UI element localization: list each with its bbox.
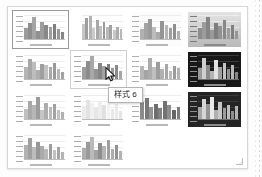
chart-bar xyxy=(82,106,86,119)
chart-bar xyxy=(210,97,214,119)
chart-style-1[interactable] xyxy=(12,10,69,49)
chart-bar xyxy=(89,16,92,39)
chart-bar xyxy=(36,70,40,79)
chart-bar xyxy=(102,105,106,119)
chart-bar xyxy=(61,72,65,79)
chart-bar xyxy=(206,65,210,79)
chart-bar xyxy=(53,24,57,39)
chart-bar xyxy=(218,67,222,79)
y-axis-tick-labels xyxy=(16,136,23,162)
chart-bar xyxy=(160,69,164,79)
chart-bar xyxy=(28,138,32,159)
chart-bar xyxy=(57,69,61,79)
chart-bar xyxy=(96,20,99,39)
chart-bar xyxy=(206,104,210,119)
chart-style-7[interactable] xyxy=(128,50,185,89)
chart-bar xyxy=(140,102,144,119)
resize-grip-icon[interactable] xyxy=(235,157,243,165)
chart-bar xyxy=(40,22,44,39)
chart-bar xyxy=(154,104,158,119)
chart-bar xyxy=(145,98,149,119)
x-axis-caption xyxy=(204,44,226,46)
y-axis-tick-labels xyxy=(132,16,139,42)
chart-bar xyxy=(53,150,57,159)
chart-style-3[interactable] xyxy=(128,10,185,49)
chart-bar xyxy=(24,28,28,39)
chart-bar xyxy=(119,151,123,159)
chart-bar xyxy=(44,25,48,39)
chart-bar xyxy=(102,66,106,79)
y-axis-tick-labels xyxy=(74,96,81,122)
chart-bar xyxy=(98,63,102,79)
chart-bar xyxy=(167,105,171,119)
chart-bar xyxy=(202,22,206,39)
chart-bar xyxy=(109,25,112,39)
chart-bar xyxy=(169,28,173,39)
chart-bar xyxy=(177,107,181,119)
chart-bar xyxy=(28,23,32,39)
chart-bar xyxy=(202,58,206,79)
x-axis-caption xyxy=(146,124,168,126)
chart-bar xyxy=(214,110,218,119)
chart-bar xyxy=(86,61,90,79)
chart-bar xyxy=(82,148,86,159)
chart-bar xyxy=(94,69,98,79)
page-boundary-line xyxy=(259,0,260,177)
chart-bar xyxy=(44,65,48,79)
chart-bar xyxy=(140,66,144,79)
chart-thumbnail xyxy=(14,52,67,87)
chart-bar xyxy=(227,28,231,39)
chart-style-13[interactable] xyxy=(12,130,69,169)
chart-bar xyxy=(227,105,231,119)
chart-bar xyxy=(24,67,28,79)
page-boundary-line-secondary xyxy=(255,0,256,177)
chart-bar xyxy=(152,67,156,79)
chart-bar xyxy=(152,27,156,39)
chart-thumbnail xyxy=(14,12,67,47)
chart-bar xyxy=(28,101,32,119)
chart-bar xyxy=(156,32,160,39)
chart-bar xyxy=(99,26,102,39)
tooltip-label: 样式 6 xyxy=(114,90,137,99)
chart-bar xyxy=(86,142,90,159)
chart-bar xyxy=(235,106,239,119)
chart-bar xyxy=(148,58,152,79)
x-axis-caption xyxy=(30,44,52,46)
chart-bar xyxy=(49,107,53,119)
chart-bar xyxy=(210,71,214,79)
chart-style-2[interactable] xyxy=(70,10,127,49)
chart-plot-area xyxy=(198,15,239,40)
chart-style-4[interactable] xyxy=(186,10,243,49)
chart-bar xyxy=(61,112,65,119)
chart-style-9[interactable] xyxy=(12,90,69,129)
chart-style-12[interactable] xyxy=(186,90,243,129)
chart-plot-area xyxy=(198,95,239,120)
x-axis-caption xyxy=(204,124,226,126)
chart-bar xyxy=(106,27,109,39)
chart-thumbnail xyxy=(130,52,183,87)
chart-bar xyxy=(61,32,65,39)
chart-plot-area xyxy=(140,95,181,120)
chart-plot-area xyxy=(140,15,181,40)
chart-bar xyxy=(92,28,95,39)
chart-style-14[interactable] xyxy=(70,130,127,169)
y-axis-tick-labels xyxy=(190,16,197,42)
chart-bar xyxy=(32,17,36,39)
x-axis-caption xyxy=(146,84,168,86)
chart-bar xyxy=(119,71,123,79)
chart-bar xyxy=(53,104,57,119)
chart-plot-area xyxy=(140,55,181,80)
chart-bar xyxy=(156,62,160,79)
chart-bar xyxy=(24,109,28,119)
chart-bar xyxy=(57,147,61,159)
chart-bar xyxy=(120,29,123,39)
x-axis-caption xyxy=(30,164,52,166)
chart-bar xyxy=(235,31,239,39)
chart-bar xyxy=(53,63,57,79)
chart-bar xyxy=(90,137,94,159)
chart-style-5[interactable] xyxy=(12,50,69,89)
chart-style-8[interactable] xyxy=(186,50,243,89)
x-axis-caption xyxy=(204,84,226,86)
chart-bar xyxy=(158,108,162,119)
chart-style-6[interactable] xyxy=(70,50,127,89)
